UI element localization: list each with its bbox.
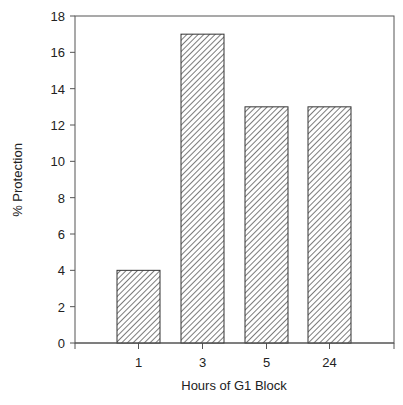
bar-1 — [117, 270, 160, 343]
y-axis-ticks: 024681012141618 — [51, 9, 75, 351]
y-tick-label: 16 — [51, 45, 65, 60]
x-tick-label: 24 — [322, 355, 336, 370]
y-tick-label: 14 — [51, 82, 65, 97]
x-tick-label: 3 — [199, 355, 206, 370]
y-tick-label: 12 — [51, 118, 65, 133]
y-tick-label: 10 — [51, 154, 65, 169]
y-tick-label: 8 — [58, 191, 65, 206]
x-tick-label: 1 — [135, 355, 142, 370]
bar-5 — [245, 107, 288, 343]
y-tick-label: 4 — [58, 263, 65, 278]
x-axis-title: Hours of G1 Block — [181, 378, 287, 393]
x-tick-label: 5 — [263, 355, 270, 370]
y-tick-label: 2 — [58, 300, 65, 315]
x-axis-ticks: 13524 — [75, 343, 394, 370]
bar-3 — [181, 34, 224, 343]
bar-chart: 024681012141618 13524 Hours of G1 Block … — [0, 0, 403, 405]
y-tick-label: 0 — [58, 336, 65, 351]
y-tick-label: 6 — [58, 227, 65, 242]
y-tick-label: 18 — [51, 9, 65, 24]
bars — [75, 34, 394, 343]
y-axis-title: % Protection — [10, 143, 25, 217]
bar-24 — [308, 107, 351, 343]
